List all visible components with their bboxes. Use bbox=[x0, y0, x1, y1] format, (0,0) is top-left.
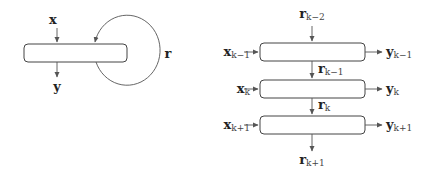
step-3-state-label: rk+1 bbox=[299, 152, 325, 168]
folded-input-label: x bbox=[49, 12, 57, 27]
folded-recurrent-label: r bbox=[165, 46, 172, 61]
diagram-canvas: x y r rk−2 xk−1 yk−1 rk−1 xk yk bbox=[0, 0, 437, 178]
step-1-output-label: yk−1 bbox=[385, 44, 412, 60]
step-2-output-label: yk bbox=[385, 81, 400, 97]
step-3-output-label: yk+1 bbox=[385, 117, 412, 133]
unrolled-step-2: xk yk rk bbox=[237, 80, 400, 114]
step-2-state-label: rk bbox=[318, 97, 331, 113]
folded-rnn: x y r bbox=[24, 12, 172, 94]
rnn-diagram: x y r rk−2 xk−1 yk−1 rk−1 xk yk bbox=[0, 0, 437, 178]
folded-cell-box bbox=[24, 44, 127, 62]
folded-output-label: y bbox=[52, 79, 61, 94]
state-label-top: rk−2 bbox=[299, 6, 325, 22]
step-1-state-label: rk−1 bbox=[318, 61, 344, 77]
unrolled-rnn: rk−2 xk−1 yk−1 rk−1 xk yk rk xk+1 bbox=[224, 6, 413, 168]
unrolled-step-3: xk+1 yk+1 rk+1 bbox=[224, 116, 413, 168]
step-3-cell-box bbox=[260, 116, 365, 134]
step-1-cell-box bbox=[260, 43, 365, 61]
step-2-cell-box bbox=[260, 80, 365, 98]
unrolled-step-1: xk−1 yk−1 rk−1 bbox=[224, 43, 413, 78]
